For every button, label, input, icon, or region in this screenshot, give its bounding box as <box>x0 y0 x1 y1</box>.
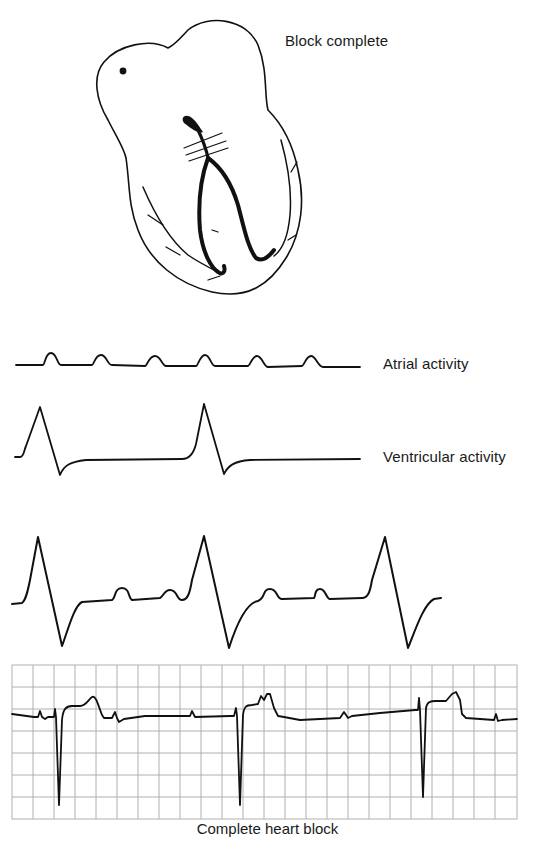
complete-heart-block-figure: Block complete Atrial activity Ventricul… <box>0 0 535 844</box>
ecg-strip <box>0 0 535 844</box>
ecg-grid <box>12 665 517 819</box>
ecg-caption: Complete heart block <box>0 820 535 838</box>
